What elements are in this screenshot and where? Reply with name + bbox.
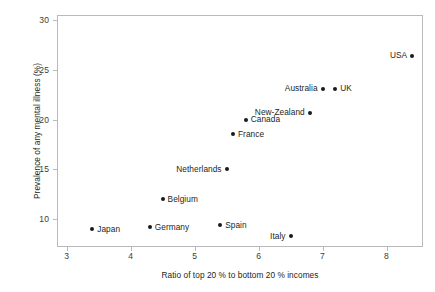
data-point[interactable] — [225, 167, 229, 171]
x-tick-label: 8 — [375, 251, 399, 261]
data-point-label: UK — [340, 84, 352, 93]
y-tick-mark — [53, 120, 57, 121]
data-point-label: USA — [390, 51, 407, 60]
x-tick-label: 5 — [183, 251, 207, 261]
data-point[interactable] — [289, 234, 293, 238]
x-tick-label: 7 — [311, 251, 335, 261]
data-point[interactable] — [161, 197, 165, 201]
data-point-label: France — [238, 130, 264, 139]
data-point-label: Australia — [285, 84, 318, 93]
data-point[interactable] — [308, 111, 312, 115]
y-tick-mark — [53, 20, 57, 21]
y-axis-title: Prevalence of any mental illness (%) — [32, 15, 42, 247]
data-point-label: Germany — [155, 223, 189, 232]
y-tick-mark — [53, 219, 57, 220]
data-point-label: Belgium — [168, 195, 198, 204]
data-point[interactable] — [410, 54, 414, 58]
x-axis-title: Ratio of top 20 % to bottom 20 % incomes — [57, 270, 423, 280]
data-point[interactable] — [321, 87, 325, 91]
data-point-label: Netherlands — [176, 165, 221, 174]
data-point[interactable] — [244, 118, 248, 122]
data-point-label: Japan — [97, 225, 120, 234]
x-tick-label: 4 — [119, 251, 143, 261]
x-tick-label: 3 — [55, 251, 79, 261]
data-point-label: Spain — [225, 221, 246, 230]
data-point-label: Italy — [270, 232, 285, 241]
x-tick-label: 6 — [247, 251, 271, 261]
y-tick-mark — [53, 169, 57, 170]
scatter-chart: 345678 1015202530 JapanGermanyBelgiumSpa… — [0, 0, 435, 292]
y-tick-mark — [53, 70, 57, 71]
data-point-label: New-Zealand — [255, 108, 305, 117]
data-point[interactable] — [148, 225, 152, 229]
